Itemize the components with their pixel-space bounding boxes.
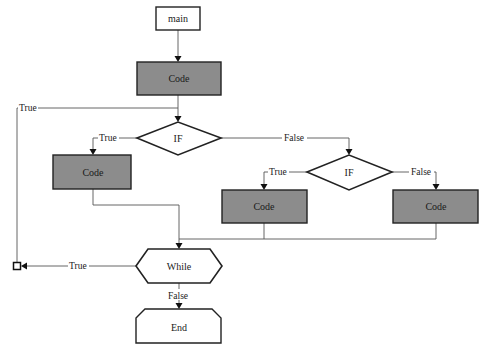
edge-code-to-if (175, 95, 182, 122)
svg-text:True: True (269, 167, 287, 177)
loop-connector-marker (14, 263, 21, 270)
svg-text:While: While (167, 261, 192, 272)
node-code-mid[interactable]: Code (222, 190, 307, 223)
edge-label-while-false: False (167, 289, 192, 301)
arrowhead-icon (21, 263, 27, 270)
arrowhead-icon (176, 243, 183, 249)
node-code-left[interactable]: Code (53, 155, 131, 189)
edge-label-if-outer-true: True (98, 132, 119, 144)
svg-text:main: main (168, 13, 188, 24)
edge-label-while-true: True (68, 260, 89, 272)
node-if-inner[interactable]: IF (307, 155, 392, 190)
svg-text:IF: IF (174, 133, 183, 144)
edge-code-mid-right-join (179, 223, 436, 239)
arrowhead-icon (175, 116, 182, 122)
svg-text:Code: Code (168, 73, 190, 84)
arrowhead-icon (176, 303, 183, 309)
edge-main-to-code (175, 30, 182, 62)
svg-text:True: True (19, 103, 37, 113)
svg-text:End: End (171, 322, 187, 333)
svg-text:Code: Code (82, 167, 104, 178)
edge-label-loop-true: True (18, 102, 38, 114)
svg-text:False: False (168, 291, 188, 301)
arrowhead-icon (433, 184, 440, 190)
svg-text:False: False (284, 133, 304, 143)
svg-text:IF: IF (345, 167, 354, 178)
arrowhead-icon (261, 184, 268, 190)
node-code-top[interactable]: Code (137, 62, 221, 95)
svg-text:True: True (69, 261, 87, 271)
edge-label-if-inner-false: False (409, 166, 434, 178)
edge-label-if-inner-true: True (268, 166, 289, 178)
arrowhead-icon (90, 149, 97, 155)
arrowhead-icon (346, 149, 353, 155)
arrowhead-icon (175, 56, 182, 62)
svg-text:Code: Code (253, 201, 275, 212)
edge-label-if-outer-false: False (282, 132, 307, 144)
svg-text:Code: Code (425, 201, 447, 212)
node-main[interactable]: main (156, 7, 200, 30)
svg-text:True: True (99, 133, 117, 143)
node-while[interactable]: While (136, 249, 222, 283)
svg-text:False: False (411, 167, 431, 177)
flowchart-canvas: True True False True False True False ma… (0, 0, 488, 359)
node-code-right[interactable]: Code (393, 190, 478, 223)
node-end[interactable]: End (136, 309, 221, 343)
node-if-outer[interactable]: IF (137, 122, 221, 155)
edge-code-left-to-while (93, 189, 183, 249)
